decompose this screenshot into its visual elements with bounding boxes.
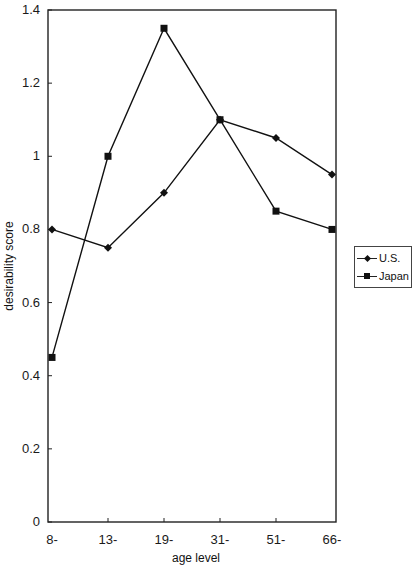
x-tick-label: 66- xyxy=(323,532,342,547)
diamond-marker-icon xyxy=(272,134,280,142)
series-japan xyxy=(49,25,336,361)
diamond-marker-icon xyxy=(357,252,377,264)
y-tick-label: 1 xyxy=(33,148,40,163)
series-layer xyxy=(48,25,336,361)
y-tick-label: 1.2 xyxy=(22,75,40,90)
diamond-marker-icon xyxy=(328,171,336,179)
legend-label: U.S. xyxy=(379,252,400,264)
square-marker-icon xyxy=(273,208,280,215)
legend: U.S. Japan xyxy=(354,246,412,288)
series-line xyxy=(52,28,332,357)
y-axis-title: desirability score xyxy=(2,221,16,311)
y-tick-label: 0.6 xyxy=(22,295,40,310)
square-marker-icon xyxy=(329,226,336,233)
plot-border xyxy=(48,10,336,522)
y-tick-label: 0 xyxy=(33,514,40,529)
x-tick-label: 13- xyxy=(99,532,118,547)
square-marker-icon xyxy=(357,270,377,282)
legend-label: Japan xyxy=(379,270,409,282)
legend-item-japan: Japan xyxy=(357,268,409,284)
legend-item-us: U.S. xyxy=(357,250,400,266)
series-line xyxy=(52,120,332,248)
x-axis-title: age level xyxy=(172,551,220,565)
series-us xyxy=(48,116,336,252)
plot-area xyxy=(48,10,336,522)
square-marker-icon xyxy=(161,25,168,32)
y-tick-label: 0.8 xyxy=(22,221,40,236)
y-tick-label: 0.4 xyxy=(22,368,40,383)
x-tick-label: 19- xyxy=(155,532,174,547)
square-marker-icon xyxy=(105,153,112,160)
square-marker-icon xyxy=(49,354,56,361)
x-tick-label: 31- xyxy=(211,532,230,547)
square-marker-icon xyxy=(217,116,224,123)
x-tick-label: 51- xyxy=(267,532,286,547)
x-tick-label: 8- xyxy=(46,532,58,547)
y-tick-label: 1.4 xyxy=(22,2,40,17)
y-tick-label: 0.2 xyxy=(22,441,40,456)
diamond-marker-icon xyxy=(48,225,56,233)
